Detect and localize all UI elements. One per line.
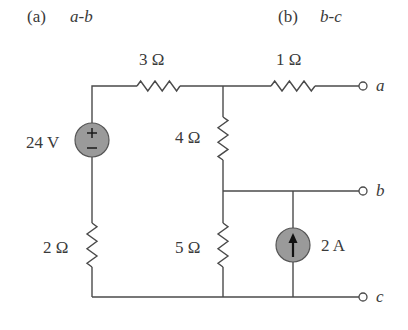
label-24-volt: 24 V (26, 133, 60, 152)
voltage-source-24v (75, 123, 109, 157)
label-3-ohm: 3 Ω (139, 50, 164, 69)
resistor-4-ohm (218, 117, 228, 160)
part-a-label: a-b (70, 7, 93, 26)
terminal-c (359, 293, 367, 301)
label-1-ohm: 1 Ω (276, 50, 301, 69)
label-4-ohm: 4 Ω (175, 128, 200, 147)
label-2-amp: 2 A (321, 236, 346, 255)
label-5-ohm: 5 Ω (175, 238, 200, 257)
header-part-a: (a) a-b (27, 7, 93, 26)
terminal-b (359, 187, 367, 195)
header-part-b: (b) b-c (278, 7, 342, 26)
resistor-1-ohm (271, 81, 315, 91)
part-b-prefix: (b) (278, 7, 298, 26)
terminal-a-label: a (376, 76, 385, 95)
label-2-ohm: 2 Ω (43, 238, 68, 257)
terminal-a (359, 82, 367, 90)
resistor-2-ohm (87, 223, 97, 267)
circuit-diagram: (a) a-b (b) b-c 3 Ω 1 Ω 4 Ω (0, 0, 408, 330)
resistor-5-ohm (218, 223, 228, 267)
terminal-c-label: c (376, 287, 384, 306)
current-source-2a (276, 228, 310, 262)
terminal-b-label: b (376, 181, 385, 200)
wire-top-left (92, 86, 137, 123)
resistor-3-ohm (137, 81, 180, 91)
part-a-prefix: (a) (27, 7, 46, 26)
part-b-label: b-c (320, 7, 342, 26)
